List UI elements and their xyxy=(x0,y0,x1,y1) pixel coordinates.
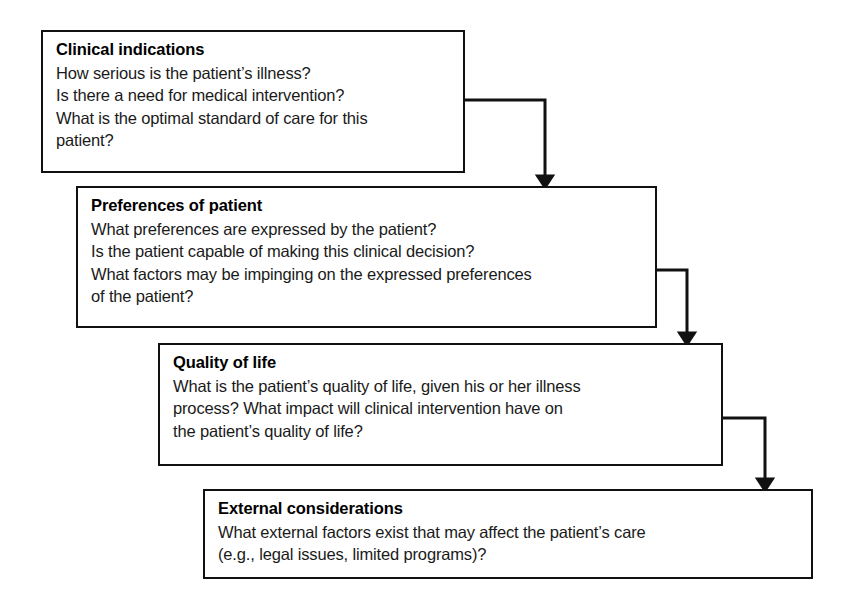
box-content: External considerations What external fa… xyxy=(205,491,811,574)
box-quality-of-life: Quality of life What is the patient’s qu… xyxy=(158,343,723,466)
box-text-line: What is the patient’s quality of life, g… xyxy=(173,375,709,397)
box-text-line: of the patient? xyxy=(91,285,643,307)
box-text-line: What external factors exist that may aff… xyxy=(218,521,799,543)
box-content: Clinical indications How serious is the … xyxy=(43,32,463,160)
box-text-line: Is there a need for medical intervention… xyxy=(56,84,451,106)
box-text-line: What is the optimal standard of care for… xyxy=(56,107,451,129)
box-heading: Preferences of patient xyxy=(91,195,643,217)
box-clinical-indications: Clinical indications How serious is the … xyxy=(41,30,465,173)
diagram-canvas: Clinical indications How serious is the … xyxy=(0,0,856,611)
connector-preferences-to-quality xyxy=(655,270,687,335)
box-text-line: What factors may be impinging on the exp… xyxy=(91,263,643,285)
box-content: Preferences of patient What preferences … xyxy=(78,188,655,316)
box-heading: Clinical indications xyxy=(56,39,451,61)
box-text-line: the patient’s quality of life? xyxy=(173,420,709,442)
box-heading: External considerations xyxy=(218,498,799,520)
box-text-line: What preferences are expressed by the pa… xyxy=(91,218,643,240)
box-text-line: process? What impact will clinical inter… xyxy=(173,397,709,419)
box-content: Quality of life What is the patient’s qu… xyxy=(160,345,721,450)
box-preferences-of-patient: Preferences of patient What preferences … xyxy=(76,186,657,328)
connector-clinical-to-preferences xyxy=(463,100,545,178)
box-text-line: (e.g., legal issues, limited programs)? xyxy=(218,543,799,565)
box-text-line: patient? xyxy=(56,129,451,151)
box-heading: Quality of life xyxy=(173,352,709,374)
box-external-considerations: External considerations What external fa… xyxy=(203,489,813,579)
box-text-line: Is the patient capable of making this cl… xyxy=(91,240,643,262)
box-text-line: How serious is the patient’s illness? xyxy=(56,62,451,84)
connector-quality-to-external xyxy=(721,418,765,481)
